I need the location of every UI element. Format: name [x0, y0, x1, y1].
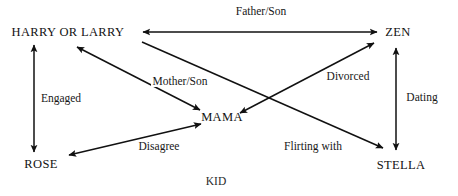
- edge-label-father-son: Father/Son: [234, 5, 287, 17]
- edge-label-flirting-with: Flirting with: [283, 140, 344, 152]
- node-zen[interactable]: ZEN: [385, 25, 410, 40]
- edge-label-divorced: Divorced: [325, 70, 371, 82]
- edge-label-engaged: Engaged: [39, 92, 82, 104]
- node-mama[interactable]: MAMA: [201, 110, 243, 125]
- node-harry[interactable]: HARRY OR LARRY: [12, 25, 125, 40]
- node-stella[interactable]: STELLA: [377, 158, 426, 173]
- relationship-diagram: HARRY OR LARRYZENMAMAROSESTELLA Father/S…: [0, 0, 458, 196]
- node-rose[interactable]: ROSE: [24, 157, 57, 172]
- edge-label-dating: Dating: [405, 91, 439, 103]
- edge-disagree: [69, 124, 201, 155]
- edge-label-mother-son: Mother/Son: [151, 75, 209, 87]
- edge-label-disagree: Disagree: [137, 140, 181, 152]
- diagram-caption: KID: [206, 175, 226, 187]
